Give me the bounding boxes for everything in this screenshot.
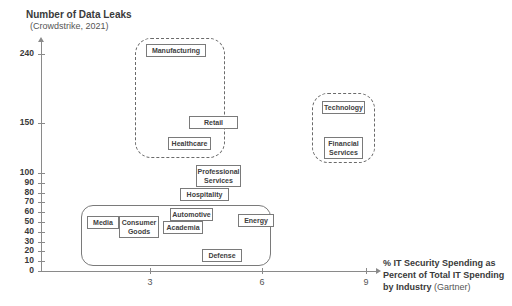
y-tick-label: 50 bbox=[6, 216, 34, 226]
point-media: Media bbox=[87, 216, 119, 229]
y-tick bbox=[38, 212, 45, 213]
point-financial-services: Financial Services bbox=[324, 137, 363, 159]
y-tick-label: 40 bbox=[6, 226, 34, 236]
y-tick-label: 10 bbox=[6, 255, 34, 265]
y-tick-label: 0 bbox=[6, 265, 34, 275]
x-tick-label: 6 bbox=[252, 277, 272, 287]
point-label: Services bbox=[329, 148, 358, 157]
point-professional-services: Professional Services bbox=[196, 165, 241, 187]
x-axis-title-line1: % IT Security Spending as bbox=[383, 257, 504, 269]
y-tick-label: 70 bbox=[6, 196, 34, 206]
y-tick-label: 20 bbox=[6, 245, 34, 255]
y-tick bbox=[38, 123, 45, 124]
x-axis-title: % IT Security Spending as Percent of Tot… bbox=[383, 257, 504, 293]
x-tick bbox=[366, 268, 367, 274]
y-tick bbox=[38, 173, 45, 174]
x-tick-label: 3 bbox=[140, 277, 160, 287]
x-tick-label: 9 bbox=[356, 277, 376, 287]
point-label: Financial bbox=[328, 139, 358, 148]
y-tick-label: 150 bbox=[6, 117, 34, 127]
y-tick bbox=[38, 232, 45, 233]
x-tick bbox=[150, 268, 151, 274]
point-retail: Retail bbox=[189, 116, 238, 129]
x-axis-source: (Gartner) bbox=[432, 282, 471, 292]
point-automotive: Automotive bbox=[170, 208, 213, 221]
point-energy: Energy bbox=[238, 214, 274, 227]
y-axis-source: (Crowdstrike, 2021) bbox=[30, 21, 109, 31]
x-axis-arrow bbox=[376, 268, 381, 274]
x-axis-title-line2: Percent of Total IT Spending bbox=[383, 269, 504, 281]
point-manufacturing: Manufacturing bbox=[146, 44, 206, 57]
point-technology: Technology bbox=[322, 101, 365, 114]
point-label: Goods bbox=[128, 227, 150, 236]
point-consumer-goods: Consumer Goods bbox=[119, 216, 159, 238]
y-tick bbox=[38, 222, 45, 223]
point-academia: Academia bbox=[163, 221, 203, 234]
x-axis-title-text: by Industry bbox=[383, 282, 432, 292]
x-tick bbox=[262, 268, 263, 274]
y-tick-label: 100 bbox=[6, 167, 34, 177]
point-healthcare: Healthcare bbox=[168, 137, 211, 150]
y-tick bbox=[38, 261, 45, 262]
y-tick bbox=[38, 251, 45, 252]
point-hospitality: Hospitality bbox=[180, 188, 229, 201]
y-axis bbox=[41, 41, 42, 272]
x-axis-title-line3: by Industry (Gartner) bbox=[383, 281, 504, 293]
y-tick-label: 240 bbox=[6, 48, 34, 58]
y-tick bbox=[38, 54, 45, 55]
y-tick-label: 90 bbox=[6, 177, 34, 187]
point-label: Services bbox=[204, 176, 233, 185]
point-label: Consumer bbox=[122, 218, 157, 227]
y-tick bbox=[38, 183, 45, 184]
y-tick bbox=[38, 242, 45, 243]
point-label: Professional bbox=[197, 167, 239, 176]
y-tick-label: 60 bbox=[6, 206, 34, 216]
y-tick bbox=[38, 193, 45, 194]
x-axis bbox=[41, 271, 376, 272]
y-tick bbox=[38, 271, 45, 272]
y-tick bbox=[38, 202, 45, 203]
y-axis-title: Number of Data Leaks bbox=[26, 9, 132, 20]
point-defense: Defense bbox=[202, 249, 242, 262]
